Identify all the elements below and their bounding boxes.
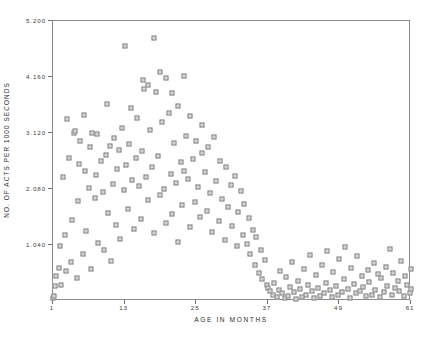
data-point [283, 275, 288, 280]
data-point [214, 179, 219, 184]
data-point [133, 155, 138, 160]
x-axis-tick-mark [338, 300, 339, 304]
data-point [152, 36, 157, 41]
data-point [145, 197, 150, 202]
data-point [70, 218, 75, 223]
data-point [301, 266, 306, 271]
data-point [241, 233, 246, 238]
data-point [82, 112, 87, 117]
y-axis-tick-label: 1.040 [26, 241, 46, 248]
x-axis-tick-label: 25 [191, 304, 200, 311]
data-point [294, 296, 299, 301]
data-point [324, 280, 329, 285]
data-point [120, 125, 125, 130]
x-axis-tick-mark [410, 300, 411, 304]
data-point [289, 260, 294, 265]
data-point [106, 210, 111, 215]
data-point [325, 249, 330, 254]
data-point [342, 277, 347, 282]
data-point [222, 237, 227, 242]
data-point [339, 290, 344, 295]
data-point [103, 152, 108, 157]
data-point [185, 177, 190, 182]
data-point [195, 184, 200, 189]
data-point [199, 151, 204, 156]
data-point [303, 292, 308, 297]
data-point [321, 291, 326, 296]
data-point [262, 258, 267, 263]
data-point [271, 280, 276, 285]
data-point [247, 251, 252, 256]
data-point [58, 244, 63, 249]
data-point [65, 117, 70, 122]
y-axis-tick-label: 4.160 [26, 73, 46, 80]
data-point [253, 263, 258, 268]
data-point [76, 198, 81, 203]
data-point [92, 195, 97, 200]
data-point [355, 253, 360, 258]
x-axis-tick-label: 61 [406, 304, 415, 311]
data-point [84, 229, 89, 234]
data-point [52, 283, 57, 288]
data-point [330, 294, 335, 299]
data-point [327, 288, 332, 293]
data-point [230, 223, 235, 228]
data-point [259, 277, 264, 282]
data-point [309, 289, 314, 294]
data-point [170, 91, 175, 96]
data-point [194, 138, 199, 143]
data-point [343, 245, 348, 250]
data-point [399, 259, 404, 264]
data-point [395, 278, 400, 283]
data-point [204, 208, 209, 213]
x-axis-tick-mark [52, 300, 53, 304]
data-point [122, 188, 127, 193]
data-point [86, 185, 91, 190]
data-point [168, 171, 173, 176]
data-point [140, 78, 145, 83]
data-point [136, 183, 141, 188]
data-point [184, 134, 189, 139]
data-point [73, 128, 78, 133]
x-axis-tick-mark [195, 300, 196, 304]
data-point [210, 230, 215, 235]
data-point [200, 123, 205, 128]
data-point [156, 153, 161, 158]
data-point [63, 269, 68, 274]
data-point [77, 161, 82, 166]
data-point [312, 295, 317, 300]
data-point [146, 82, 151, 87]
data-point [53, 274, 58, 279]
data-point [134, 115, 139, 120]
data-point [104, 101, 109, 106]
data-point [383, 264, 388, 269]
data-point [369, 292, 374, 297]
data-point [313, 273, 318, 278]
data-point [357, 289, 362, 294]
data-point [163, 221, 168, 226]
data-point [111, 136, 116, 141]
data-point [95, 132, 100, 137]
data-point [197, 215, 202, 220]
y-axis-title: NO. OF ACTS PER 1000 SECONDS [3, 82, 10, 218]
data-point [407, 291, 412, 296]
data-point [307, 252, 312, 257]
data-point [319, 263, 324, 268]
data-point [166, 110, 171, 115]
data-point [241, 202, 246, 207]
data-point [206, 145, 211, 150]
y-axis-tick-label: 5.200 [26, 17, 46, 24]
data-point [180, 203, 185, 208]
data-point [224, 165, 229, 170]
data-point [387, 247, 392, 252]
data-point [235, 244, 240, 249]
data-point [78, 138, 83, 143]
data-point [154, 90, 159, 95]
data-point [169, 211, 174, 216]
data-point [62, 233, 67, 238]
data-point [232, 174, 237, 179]
x-axis-tick-label: 49 [334, 304, 343, 311]
data-point [389, 292, 394, 297]
data-point [52, 293, 57, 298]
data-point [190, 156, 195, 161]
